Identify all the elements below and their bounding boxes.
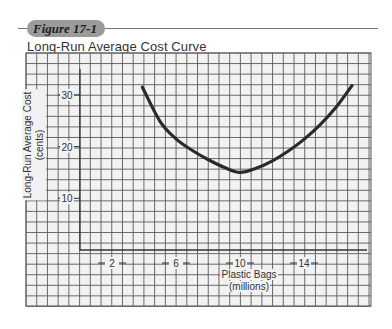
y-axis-label-line1: Long-Run Average Cost (22, 92, 34, 199)
x-axis-label: Plastic Bags (millions) (209, 269, 289, 293)
y-axis-label-line2: (cents) (34, 92, 46, 199)
x-tick-label: 14 (298, 258, 310, 269)
x-tick-label: 10 (234, 258, 246, 269)
x-axis-label-line2: (millions) (228, 281, 270, 292)
x-tick-label: 2 (109, 258, 115, 269)
y-tick-label: 30 (61, 90, 73, 101)
x-tick-label: 6 (173, 258, 179, 269)
y-tick-label: 10 (61, 193, 73, 204)
x-axis-label-line1: Plastic Bags (220, 269, 277, 280)
chart-plot: 102030261014 (0, 0, 392, 329)
y-tick-label: 20 (61, 142, 73, 153)
